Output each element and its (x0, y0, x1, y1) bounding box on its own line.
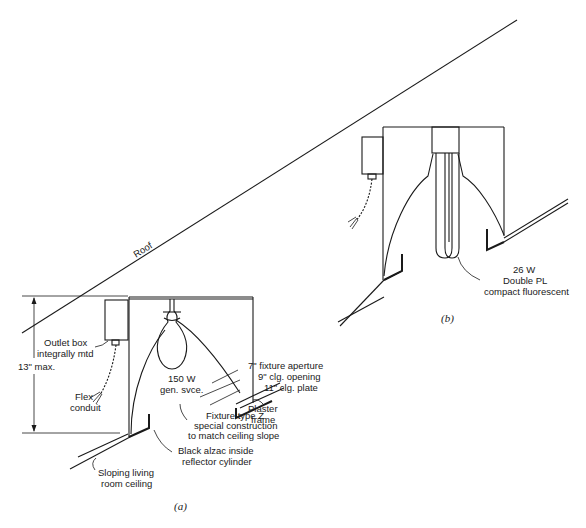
label-26w: 26 W (513, 264, 535, 275)
outlet-box (105, 300, 128, 340)
label-sloping-living: Sloping living (98, 467, 154, 478)
label-reflector-cylinder: reflector cylinder (182, 456, 252, 467)
lamp-socket (432, 127, 459, 153)
label-room-ceiling: room ceiling (101, 478, 152, 489)
label-flex: Flex (75, 391, 93, 402)
label-clg-opening: 9" clg. opening (258, 371, 321, 382)
label-outlet-box-2: integrally mtd (37, 348, 94, 359)
lighting-fixture-diagram: Roof 13" max. (0, 0, 586, 528)
flex-conduit (100, 345, 116, 395)
outlet-box-b (362, 137, 383, 174)
figure-a: 13" max. (18, 296, 323, 513)
label-clg-plate: 11" clg. plate (264, 382, 318, 393)
figure-b: 26 W Double PL compact fluorescent (b) (338, 127, 569, 326)
sloping-ceiling (70, 437, 130, 469)
label-compact-fluorescent: compact fluorescent (484, 286, 569, 297)
roof-line (22, 20, 517, 333)
label-ceiling-slope: to match ceiling slope (188, 430, 279, 441)
sloping-ceiling-b (338, 297, 384, 322)
flex-conduit-b (356, 179, 372, 221)
caption-a: (a) (174, 500, 187, 513)
label-lamp-watts: 150 W (168, 373, 195, 384)
label-black-alzac: Black alzac inside (178, 445, 254, 456)
label-conduit: conduit (70, 402, 101, 413)
label-lamp-type: gen. svce. (160, 384, 203, 395)
reflector-b (384, 154, 433, 276)
caption-b: (b) (441, 312, 454, 325)
compact-fluorescent-lamp (436, 153, 452, 258)
label-outlet-box: Outlet box (44, 337, 88, 348)
label-double-pl: Double PL (503, 275, 547, 286)
height-dimension: 13" max. (18, 361, 55, 372)
label-aperture: 7" fixture aperture (248, 360, 323, 371)
